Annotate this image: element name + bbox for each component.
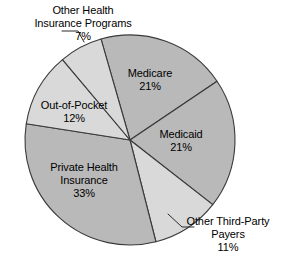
- slice-label-private-health-insurance: Private Health Insurance 33%: [32, 161, 136, 200]
- pie-chart: Other Health Insurance Programs 7% Medic…: [0, 0, 282, 265]
- slice-label-medicare: Medicare 21%: [110, 67, 190, 93]
- slice-label-value: 7%: [8, 30, 158, 43]
- slice-label-other-third-party-payers: Other Third-Party Payers 11%: [176, 215, 280, 254]
- slice-label-value: 21%: [142, 141, 220, 154]
- slice-label-line: Private Health: [32, 161, 136, 174]
- slice-label-other-health-insurance-programs: Other Health Insurance Programs 7%: [8, 4, 158, 43]
- slice-label-line: Insurance Programs: [8, 17, 158, 30]
- slice-label-medicaid: Medicaid 21%: [142, 128, 220, 154]
- slice-label-value: 11%: [176, 241, 280, 254]
- slice-label-value: 33%: [32, 187, 136, 200]
- slice-label-out-of-pocket: Out-of-Pocket 12%: [24, 99, 124, 125]
- slice-label-line: Medicaid: [142, 128, 220, 141]
- slice-label-line: Out-of-Pocket: [24, 99, 124, 112]
- slice-label-value: 21%: [110, 80, 190, 93]
- slice-label-line: Other Health: [8, 4, 158, 17]
- slice-label-line: Payers: [176, 228, 280, 241]
- slice-label-line: Medicare: [110, 67, 190, 80]
- slice-label-line: Insurance: [32, 174, 136, 187]
- slice-label-line: Other Third-Party: [176, 215, 280, 228]
- slice-label-value: 12%: [24, 112, 124, 125]
